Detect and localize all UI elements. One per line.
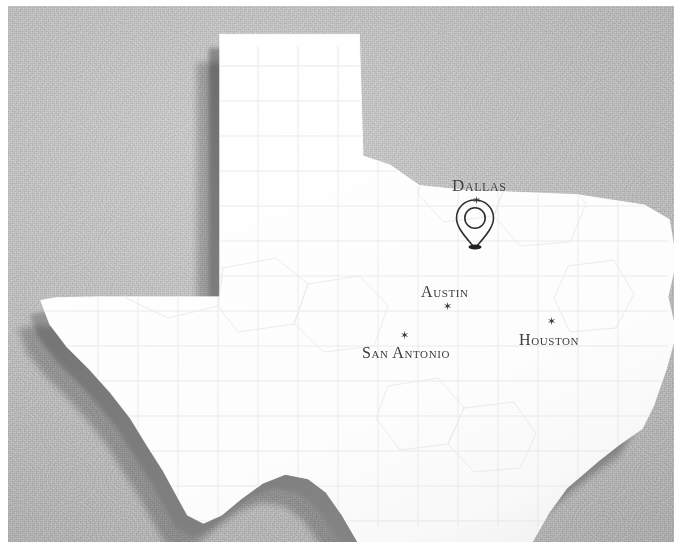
- map-photo: [8, 6, 674, 542]
- location-pin-icon[interactable]: [452, 197, 498, 251]
- texas-map-svg: [8, 6, 674, 542]
- texas-landmass-group: [21, 34, 674, 542]
- screenshot-root: Dallas ✶ Austin ✶ San Antonio ✶ Houston …: [0, 0, 680, 553]
